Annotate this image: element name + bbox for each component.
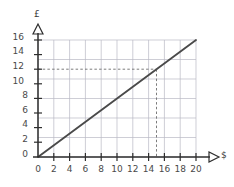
x-tick-label-4: 4 [62, 164, 78, 174]
y-axis-arrow-icon [33, 24, 43, 34]
y-tick-label-2: 2 [12, 134, 28, 144]
y-tick-label-0: 0 [12, 149, 28, 159]
y-axis-label: £ [34, 9, 40, 19]
x-tick-label-2: 2 [46, 164, 62, 174]
y-tick-label-16: 16 [8, 32, 24, 42]
x-axis-arrow-icon [209, 152, 219, 162]
y-tick-label-10: 10 [8, 76, 24, 86]
y-tick-label-6: 6 [12, 105, 28, 115]
x-tick-label-8: 8 [93, 164, 109, 174]
y-tick-label-4: 4 [12, 119, 28, 129]
y-tick-label-8: 8 [12, 90, 28, 100]
x-tick-label-18: 18 [172, 164, 188, 174]
x-tick-label-20: 20 [188, 164, 204, 174]
y-tick-label-14: 14 [8, 46, 24, 56]
x-tick-label-0: 0 [30, 164, 46, 174]
x-tick-label-10: 10 [109, 164, 125, 174]
x-tick-label-16: 16 [156, 164, 172, 174]
chart-canvas: £ $ 0 2 4 6 8 10 12 14 16 0 2 4 6 8 10 1… [0, 0, 234, 187]
y-tick-label-12: 12 [8, 61, 24, 71]
x-tick-label-14: 14 [141, 164, 157, 174]
x-tick-label-6: 6 [77, 164, 93, 174]
x-axis-label: $ [221, 150, 227, 160]
x-tick-label-12: 12 [125, 164, 141, 174]
currency-conversion-graph [0, 0, 234, 187]
